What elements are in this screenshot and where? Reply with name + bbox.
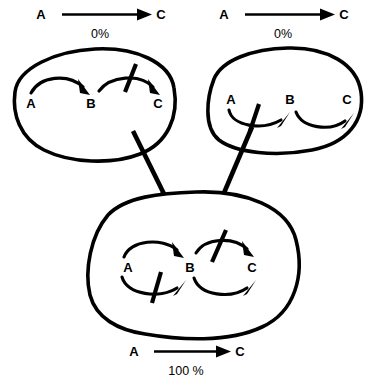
node-label-c: C [153,96,163,111]
node-label-b: B [86,96,95,111]
header-from-label: A [219,7,229,22]
header-top-right: A C 0% [219,7,349,41]
node-label-a: A [26,96,36,111]
node-label-c: C [247,260,257,275]
footer-bottom: A C 100 % [129,344,245,378]
header-percent-label: 0% [91,27,109,41]
node-label-c: C [342,92,352,107]
node-label-a: A [123,260,133,275]
node-label-b: B [285,92,294,107]
footer-percent-label: 100 % [168,364,203,378]
footer-arrow-head [216,346,231,358]
node-label-b: B [185,260,194,275]
header-from-label: A [36,7,46,22]
footer-from-label: A [129,344,139,359]
panel-bottom: A B C [88,192,299,378]
header-arrow-head [137,9,152,21]
header-top-left: A C 0% [36,7,166,41]
diagram-canvas: C with 0% --> A C 0% A B C [0,0,368,379]
pathway-diagram: C with 0% --> A C 0% A B C [0,0,368,379]
footer-to-label: C [235,344,245,359]
panel-top-right: A C 0% A B C [208,7,362,153]
header-arrow-head [320,9,335,21]
header-percent-label: 0% [274,27,292,41]
panel-top-left: C with 0% --> A C 0% A B C [14,7,175,161]
header-to-label: C [156,7,166,22]
node-label-a: A [226,92,236,107]
header-to-label: C [339,7,349,22]
